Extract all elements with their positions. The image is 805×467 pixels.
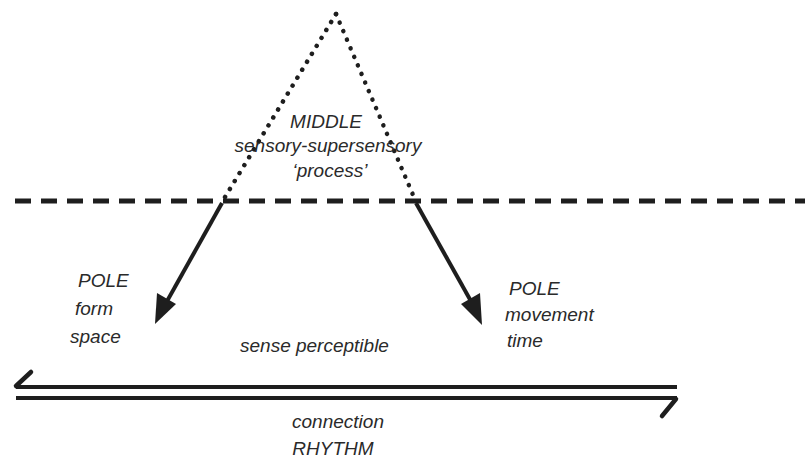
polarity-diagram: MIDDLE sensory-supersensory ‘process’ PO… — [0, 0, 805, 467]
rhythm-label: RHYTHM — [292, 439, 373, 458]
left-pole-space: space — [70, 327, 121, 346]
right-pole-title: POLE — [509, 279, 560, 298]
left-pole-title: POLE — [78, 271, 129, 290]
middle-title: MIDDLE — [290, 112, 362, 131]
arrow-to-left-pole — [155, 203, 222, 324]
right-pole-movement: movement — [505, 305, 594, 324]
diagram-canvas — [0, 0, 805, 467]
rhythm-double-arrow — [16, 372, 677, 416]
right-pole-time: time — [507, 331, 543, 350]
arrow-to-right-pole — [416, 203, 482, 325]
connection-label: connection — [292, 412, 384, 431]
left-pole-form: form — [75, 299, 113, 318]
middle-subtitle: sensory-supersensory — [235, 136, 422, 155]
sense-perceptible-label: sense perceptible — [240, 336, 389, 355]
middle-process: ‘process’ — [293, 161, 368, 180]
